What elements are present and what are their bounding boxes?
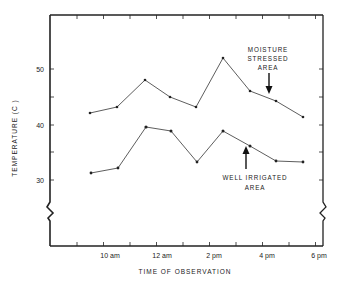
arrow-up-icon [243, 146, 250, 169]
series-well-irrigated [90, 125, 305, 174]
arrow-down-icon [266, 73, 273, 94]
x-tick-label-12am: 12 am [152, 252, 172, 259]
x-tick-label-2pm: 2 pm [206, 252, 222, 260]
annotation-well-irrigated: WELL IRRIGATED AREA [222, 146, 287, 191]
annotation-stressed-line1: MOISTURE [248, 46, 288, 53]
y-tick-label-30: 30 [36, 177, 44, 184]
annotation-stressed-line3: AREA [258, 64, 279, 71]
annotation-irrigated-line2: AREA [245, 184, 266, 191]
annotation-irrigated-line1: WELL IRRIGATED [222, 174, 287, 181]
annotation-stressed-line2: STRESSED [247, 55, 288, 62]
y-axis-title: TEMPERATURE (C ) [11, 99, 19, 176]
x-tick-label-6pm: 6 pm [311, 252, 327, 260]
y-tick-label-50: 50 [36, 66, 44, 73]
y-tick-label-40: 40 [36, 122, 44, 129]
temperature-line-chart: 50 40 30 10 am 12 am 2 pm 4 pm 6 pm TIME… [0, 0, 344, 286]
x-axis-title: TIME OF OBSERVATION [138, 268, 231, 275]
annotation-moisture-stressed: MOISTURE STRESSED AREA [247, 46, 288, 94]
x-tick-label-4pm: 4 pm [259, 252, 275, 260]
x-tick-label-10am: 10 am [100, 252, 120, 259]
